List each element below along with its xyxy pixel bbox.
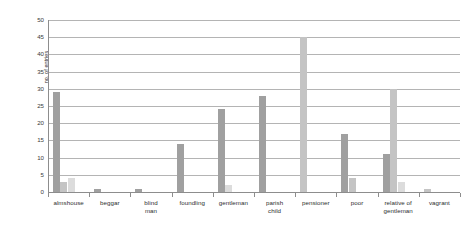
y-tick-label: 35 [20,69,44,75]
x-tick [48,193,49,197]
x-tick-label-line: vagrant [412,199,467,207]
x-tick [89,193,90,197]
bar [177,144,184,192]
bar-group [213,20,254,192]
y-tick-label: 30 [20,86,44,92]
y-tick-label: 25 [20,103,44,109]
y-tick-label: 20 [20,120,44,126]
y-tick-label: 45 [20,34,44,40]
bar [398,182,405,192]
bar [390,89,397,192]
x-tick [419,193,420,197]
bar-chart: no. of entries 05101520253035404550 alms… [0,0,468,233]
bar-group [336,20,377,192]
bar [53,92,60,192]
x-tick-label-line: gentleman [371,207,426,215]
bar-group [378,20,419,192]
bar-group [172,20,213,192]
bar [300,37,307,192]
x-tick [130,193,131,197]
bars-layer [48,20,460,192]
bar-group [295,20,336,192]
bar [424,189,431,192]
bar [135,189,142,192]
bar [383,154,390,192]
bar [349,178,356,192]
bar [94,189,101,192]
bar [341,134,348,192]
bar [218,109,225,192]
x-tick [460,193,461,197]
x-tick [254,193,255,197]
x-tick [172,193,173,197]
x-axis-tick-marks [48,193,460,197]
bar [259,96,266,192]
bar-group [89,20,130,192]
bar [60,182,67,192]
y-tick-label: 40 [20,51,44,57]
y-tick-label: 50 [20,17,44,23]
bar-group [130,20,171,192]
y-tick-label: 0 [20,189,44,195]
bar [225,185,232,192]
x-tick-label-line: child [247,207,302,215]
x-tick [336,193,337,197]
x-axis-tick-labels: almshousebeggarblindmanfoundlinggentlema… [48,199,460,229]
y-tick-label: 15 [20,137,44,143]
bar-group [254,20,295,192]
x-tick-label-line: man [123,207,178,215]
bar-group [48,20,89,192]
bar-group [419,20,460,192]
x-tick-label: vagrant [412,199,467,207]
x-tick [213,193,214,197]
x-tick [378,193,379,197]
y-tick-label: 5 [20,172,44,178]
x-tick [295,193,296,197]
y-tick-label: 10 [20,155,44,161]
bar [68,178,75,192]
